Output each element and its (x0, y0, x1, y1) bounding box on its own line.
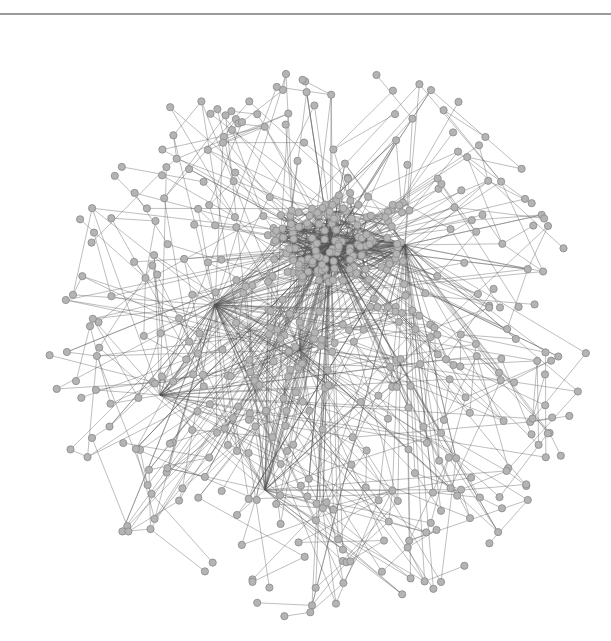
graph-node (437, 507, 444, 514)
graph-node (120, 439, 127, 446)
graph-node (125, 528, 132, 535)
graph-node (405, 404, 412, 411)
graph-edge (528, 226, 548, 269)
graph-node (438, 180, 445, 187)
graph-edge (111, 218, 155, 221)
graph-node (131, 189, 138, 196)
graph-node (249, 578, 256, 585)
graph-node (323, 499, 330, 506)
graph-node (227, 373, 234, 380)
graph-node (186, 166, 193, 173)
graph-node (262, 407, 269, 414)
graph-node (399, 591, 406, 598)
graph-edge (332, 352, 400, 359)
graph-node (142, 274, 149, 281)
graph-node (391, 111, 398, 118)
graph-edge (425, 566, 465, 582)
graph-node (307, 609, 314, 616)
graph-node (309, 258, 316, 265)
graph-node (164, 465, 171, 472)
graph-edge (537, 361, 538, 445)
graph-node (445, 454, 452, 461)
graph-node (394, 240, 401, 247)
graph-node (549, 414, 556, 421)
graph-node (204, 259, 211, 266)
graph-node (212, 222, 219, 229)
graph-node (387, 363, 394, 370)
graph-node (312, 517, 319, 524)
graph-node (423, 529, 430, 536)
graph-node (524, 496, 531, 503)
graph-node (147, 526, 154, 533)
graph-edge (151, 529, 205, 571)
graph-node (304, 220, 311, 227)
graph-node (346, 266, 353, 273)
graph-node (233, 276, 240, 283)
graph-node (384, 415, 391, 422)
graph-node (541, 215, 548, 222)
graph-node (201, 473, 208, 480)
graph-node (389, 87, 396, 94)
graph-node (437, 578, 444, 585)
graph-node (280, 395, 287, 402)
graph-node (384, 234, 391, 241)
graph-node (149, 262, 156, 269)
graph-node (367, 303, 374, 310)
graph-node (96, 344, 103, 351)
graph-node (273, 83, 280, 90)
graph-node (329, 201, 336, 208)
graph-node (534, 357, 541, 364)
graph-node (219, 139, 226, 146)
graph-node (332, 600, 339, 607)
graph-node (523, 481, 530, 488)
graph-node (299, 360, 306, 367)
graph-node (422, 290, 429, 297)
graph-node (295, 223, 302, 230)
graph-node (306, 212, 313, 219)
graph-node (386, 260, 393, 267)
graph-node (295, 209, 302, 216)
graph-node (181, 255, 188, 262)
graph-node (427, 87, 434, 94)
graph-node (46, 352, 53, 359)
graph-node (140, 332, 147, 339)
network-graph (0, 0, 611, 641)
graph-node (194, 350, 201, 357)
graph-edge (257, 603, 312, 606)
graph-node (518, 165, 525, 172)
graph-node (295, 539, 302, 546)
graph-node (461, 562, 468, 569)
graph-node (132, 445, 139, 452)
graph-edge (460, 335, 461, 367)
graph-node (500, 417, 507, 424)
graph-node (311, 102, 318, 109)
graph-node (340, 205, 347, 212)
graph-node (330, 258, 337, 265)
graph-node (512, 335, 519, 342)
graph-node (498, 505, 505, 512)
graph-node (406, 207, 413, 214)
graph-node (198, 98, 205, 105)
graph-node (245, 449, 252, 456)
graph-node (265, 331, 272, 338)
graph-node (301, 139, 308, 146)
graph-node (454, 492, 461, 499)
graph-node (90, 229, 97, 236)
graph-node (313, 500, 320, 507)
graph-node (404, 544, 411, 551)
graph-node (416, 312, 423, 319)
graph-node (89, 205, 96, 212)
graph-node (190, 371, 197, 378)
graph-node (238, 541, 245, 548)
graph-edge (461, 335, 516, 339)
graph-node (417, 361, 424, 368)
graph-node (312, 247, 319, 254)
graph-node (495, 529, 502, 536)
graph-node (541, 371, 548, 378)
graph-node (475, 142, 482, 149)
graph-node (402, 292, 409, 299)
graph-node (79, 273, 86, 280)
graph-node (421, 578, 428, 585)
graph-node (152, 217, 159, 224)
graph-node (266, 194, 273, 201)
